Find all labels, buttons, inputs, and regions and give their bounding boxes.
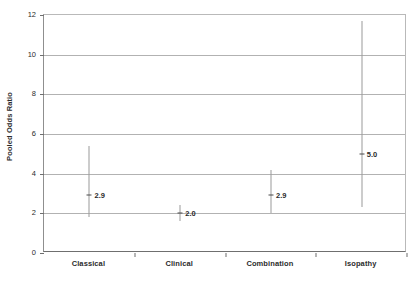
x-axis-tick-mark bbox=[407, 253, 408, 257]
data-point-marker bbox=[268, 195, 273, 196]
x-axis-tick-mark bbox=[316, 253, 317, 257]
gridline bbox=[44, 174, 405, 175]
data-point-marker bbox=[178, 213, 183, 214]
y-axis-tick-label: 12 bbox=[6, 10, 36, 19]
data-point-label: 2.9 bbox=[276, 191, 287, 200]
gridline bbox=[44, 134, 405, 135]
chart-container: Pooled Odds Ratio 2.92.02.95.0 024681012… bbox=[0, 0, 418, 288]
y-axis-tick-mark bbox=[40, 213, 44, 214]
y-axis-tick-mark bbox=[40, 94, 44, 95]
x-axis-tick-mark bbox=[225, 253, 226, 257]
y-axis-tick-label: 10 bbox=[6, 49, 36, 58]
y-axis-tick-mark bbox=[40, 55, 44, 56]
gridline bbox=[44, 55, 405, 56]
error-bar bbox=[89, 146, 90, 217]
x-axis-tick-mark bbox=[134, 253, 135, 257]
y-axis-tick-mark bbox=[40, 15, 44, 16]
x-axis-category-label: Combination bbox=[246, 259, 293, 268]
y-axis-tick-label: 0 bbox=[6, 248, 36, 257]
y-axis-tick-label: 4 bbox=[6, 168, 36, 177]
y-axis-title-text: Pooled Odds Ratio bbox=[5, 92, 14, 161]
y-axis-tick-mark bbox=[40, 253, 44, 254]
plot-area: 2.92.02.95.0 bbox=[43, 14, 406, 252]
data-point-marker bbox=[359, 153, 364, 154]
y-axis-tick-label: 8 bbox=[6, 89, 36, 98]
error-bar bbox=[361, 21, 362, 207]
x-axis-category-label: Clinical bbox=[165, 259, 192, 268]
error-bar bbox=[270, 170, 271, 214]
y-axis-tick-label: 2 bbox=[6, 208, 36, 217]
y-axis-tick-mark bbox=[40, 174, 44, 175]
gridline bbox=[44, 94, 405, 95]
data-point-marker bbox=[87, 195, 92, 196]
data-point-label: 2.0 bbox=[185, 209, 196, 218]
x-axis-category-label: Isopathy bbox=[345, 259, 377, 268]
data-point-label: 2.9 bbox=[94, 191, 105, 200]
data-point-label: 5.0 bbox=[367, 149, 378, 158]
x-axis-category-label: Classical bbox=[72, 259, 105, 268]
y-axis-tick-label: 6 bbox=[6, 129, 36, 138]
y-axis-tick-mark bbox=[40, 134, 44, 135]
gridline bbox=[44, 213, 405, 214]
